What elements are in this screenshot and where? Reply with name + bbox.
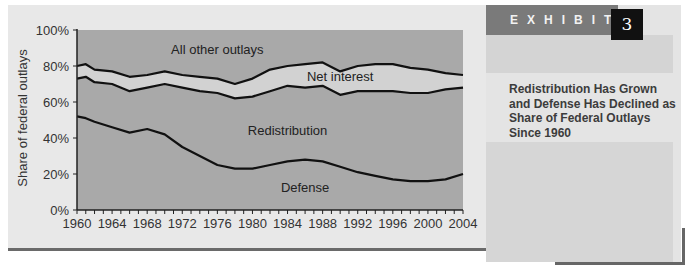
- plot-area: [77, 30, 463, 210]
- plot-background: [77, 30, 463, 210]
- area-label: Defense: [281, 180, 329, 195]
- y-tick-label: 80%: [43, 59, 69, 74]
- stacked-area-chart: 0%20%40%60%80%100%1960196419681972197619…: [0, 0, 692, 274]
- area-label: All other outlays: [171, 42, 264, 57]
- area-label: Net interest: [307, 69, 374, 84]
- x-tick-label: 2000: [413, 216, 442, 231]
- y-tick-label: 40%: [43, 131, 69, 146]
- area-label: Redistribution: [248, 123, 328, 138]
- x-tick-label: 1968: [133, 216, 162, 231]
- x-tick-label: 1988: [308, 216, 337, 231]
- x-tick-label: 1980: [238, 216, 267, 231]
- y-tick-label: 60%: [43, 95, 69, 110]
- x-tick-label: 2004: [449, 216, 478, 231]
- x-tick-label: 1960: [63, 216, 92, 231]
- x-tick-label: 1976: [203, 216, 232, 231]
- y-tick-label: 100%: [36, 23, 70, 38]
- x-tick-label: 1964: [98, 216, 127, 231]
- x-tick-label: 1996: [378, 216, 407, 231]
- x-tick-label: 1992: [343, 216, 372, 231]
- x-tick-label: 1984: [273, 216, 302, 231]
- y-tick-label: 20%: [43, 167, 69, 182]
- x-tick-label: 1972: [168, 216, 197, 231]
